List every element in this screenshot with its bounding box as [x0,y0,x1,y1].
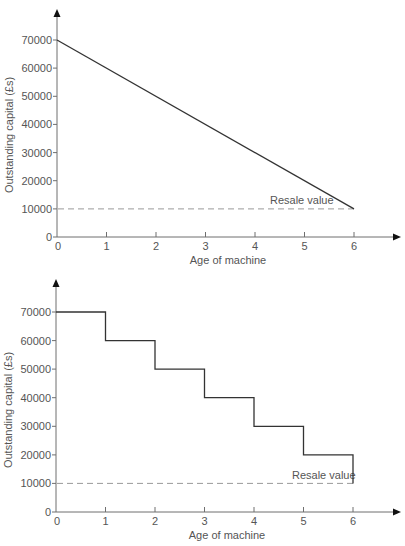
x-ticks [107,232,355,237]
y-tick-labels: 0 10000 20000 30000 40000 50000 60000 70… [21,34,52,243]
y-tick-labels: 0 10000 20000 30000 40000 50000 60000 70… [20,306,51,518]
x-tick-label: 6 [350,515,356,527]
y-tick-label: 40000 [20,392,51,404]
x-tick-label: 3 [202,240,208,252]
x-axis-arrow-icon [393,509,401,516]
y-axis-arrow-icon [53,279,60,287]
chart-linear-depreciation: 0 10000 20000 30000 40000 50000 60000 70… [3,9,401,266]
y-tick-label: 60000 [21,62,52,74]
x-tick-label: 1 [102,515,108,527]
x-tick-label: 0 [54,515,60,527]
x-ticks [106,507,354,512]
stepped-depreciation-line [56,312,353,483]
x-tick-label: 4 [252,240,258,252]
x-tick-label: 2 [152,515,158,527]
y-tick-label: 50000 [21,90,52,102]
depreciation-line [57,40,354,209]
y-tick-label: 10000 [21,203,52,215]
y-ticks [52,312,56,512]
x-tick-labels: 0 1 2 3 4 5 6 [55,240,357,252]
x-tick-label: 6 [351,240,357,252]
x-axis-title: Age of machine [190,254,266,266]
x-tick-label: 2 [153,240,159,252]
x-tick-label: 1 [103,240,109,252]
y-tick-label: 30000 [21,147,52,159]
y-ticks [53,40,57,237]
y-tick-label: 20000 [20,449,51,461]
y-axis-title: Outstanding capital (£s) [2,352,14,468]
y-tick-label: 20000 [21,175,52,187]
y-tick-label: 60000 [20,335,51,347]
y-tick-label: 70000 [21,34,52,46]
y-axis-title: Outstanding capital (£s) [3,77,15,193]
x-tick-label: 0 [55,240,61,252]
x-tick-labels: 0 1 2 3 4 5 6 [54,515,356,527]
x-axis-arrow-icon [393,234,401,241]
y-tick-label: 70000 [20,306,51,318]
x-tick-label: 3 [201,515,207,527]
figure: 0 10000 20000 30000 40000 50000 60000 70… [0,0,405,546]
x-tick-label: 5 [301,240,307,252]
y-tick-label: 50000 [20,363,51,375]
y-tick-label: 10000 [20,477,51,489]
y-tick-label: 0 [46,231,52,243]
resale-value-label: Resale value [292,469,356,481]
y-tick-label: 0 [45,506,51,518]
x-tick-label: 5 [300,515,306,527]
x-axis-title: Age of machine [189,529,265,541]
resale-value-label: Resale value [270,194,334,206]
y-tick-label: 30000 [20,420,51,432]
y-axis-arrow-icon [54,9,61,17]
y-tick-label: 40000 [21,118,52,130]
chart-stepped-depreciation: 0 10000 20000 30000 40000 50000 60000 70… [2,279,401,541]
x-tick-label: 4 [251,515,257,527]
